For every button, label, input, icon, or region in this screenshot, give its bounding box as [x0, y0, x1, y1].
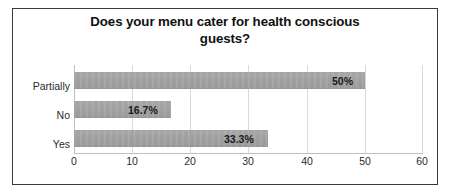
chart-title: Does your menu cater for health consciou… — [13, 13, 437, 47]
x-tick-20: 20 — [184, 155, 196, 167]
x-tick-10: 10 — [126, 155, 138, 167]
x-tick-30: 30 — [242, 155, 254, 167]
chart-title-line-2: guests? — [13, 30, 437, 47]
chart-title-line-1: Does your menu cater for health consciou… — [13, 13, 437, 30]
plot-area: 50% 16.7% 33.3% — [74, 65, 423, 153]
chart-container: Does your menu cater for health consciou… — [12, 8, 438, 185]
y-axis-category-labels: Partially No Yes — [13, 65, 70, 153]
x-tick-40: 40 — [301, 155, 313, 167]
bar-value-no: 16.7% — [128, 104, 158, 116]
x-tick-60: 60 — [416, 155, 428, 167]
y-axis-label-no: No — [57, 109, 70, 121]
bar-value-partially: 50% — [332, 75, 353, 87]
bar-partially[interactable] — [74, 72, 365, 89]
bar-row-partially: 50% — [74, 72, 423, 89]
bar-value-yes: 33.3% — [224, 133, 254, 145]
x-axis-line — [74, 153, 423, 154]
x-tick-0: 0 — [71, 155, 77, 167]
y-axis-label-partially: Partially — [33, 80, 70, 92]
bar-row-yes: 33.3% — [74, 130, 423, 147]
y-axis-label-yes: Yes — [53, 138, 70, 150]
x-tick-50: 50 — [359, 155, 371, 167]
x-axis-tick-labels: 0 10 20 30 40 50 60 — [74, 155, 423, 175]
bar-row-no: 16.7% — [74, 101, 423, 118]
